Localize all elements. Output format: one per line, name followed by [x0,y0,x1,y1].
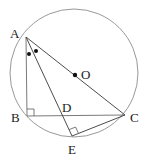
point-label-E: E [68,143,76,156]
right-angle-at-B [27,109,34,116]
point-label-A: A [10,27,19,40]
segment-BC [27,115,125,116]
segment-AB [26,37,27,116]
geometry-canvas [0,0,149,158]
center-dot-O [73,73,77,77]
segment-AE [26,37,72,136]
angle-dot-BAE [27,52,31,56]
segment-EC [72,115,125,136]
point-label-O: O [81,68,90,81]
geometry-figure: A B C D E O [0,0,149,158]
point-label-D: D [62,101,71,114]
point-label-C: C [130,111,139,124]
point-label-B: B [11,111,20,124]
angle-dot-EAC [34,49,38,53]
